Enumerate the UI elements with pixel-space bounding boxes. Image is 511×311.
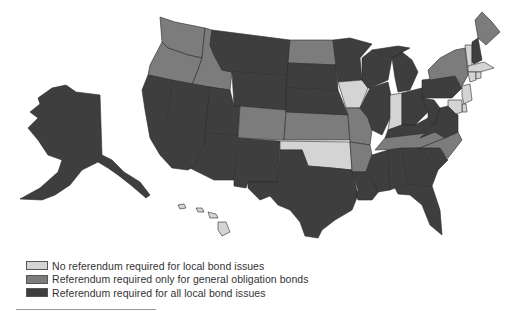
us-map [0,0,511,250]
state-nd [288,40,336,65]
legend-item-no-referendum: No referendum required for local bond is… [26,259,309,273]
state-fl [395,185,442,235]
state-pa [422,76,462,98]
legend-swatch-no-referendum [26,261,48,270]
legend-label-all-bonds: Referendum required for all local bond i… [52,287,266,299]
state-de [462,104,467,112]
state-ri [476,72,481,79]
legend-item-go-bonds: Referendum required only for general obl… [26,273,309,287]
legend: No referendum required for local bond is… [26,259,309,300]
state-co [238,106,286,140]
state-sd [286,63,338,90]
legend-swatch-all-bonds [26,288,48,297]
state-mt [210,30,290,75]
state-hi [178,204,230,236]
state-ak [20,85,150,200]
legend-label-no-referendum: No referendum required for local bond is… [52,260,264,272]
state-ks [284,112,350,140]
state-nj [462,84,472,104]
legend-item-all-bonds: Referendum required for all local bond i… [26,286,309,300]
legend-label-go-bonds: Referendum required only for general obl… [52,273,309,285]
state-wy [232,72,288,110]
state-nh [472,38,482,64]
state-me [475,12,500,45]
legend-swatch-go-bonds [26,275,48,284]
state-in [388,93,402,130]
state-ne [286,88,348,115]
state-ct [468,72,476,82]
footer-rule [16,309,156,310]
state-nm [234,138,280,188]
